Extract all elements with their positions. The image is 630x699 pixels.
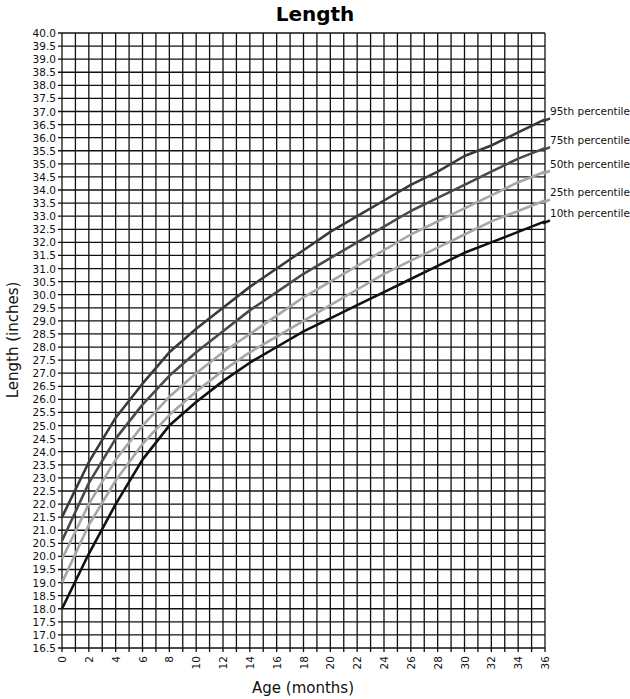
x-tick-label: 30 bbox=[459, 656, 471, 669]
y-tick-label: 32.5 bbox=[33, 223, 56, 235]
y-tick-label: 29.5 bbox=[33, 302, 56, 314]
x-tick-label: 18 bbox=[298, 656, 310, 669]
y-tick-label: 17.5 bbox=[33, 616, 56, 628]
chart-grid bbox=[58, 33, 545, 652]
y-tick-label: 27.0 bbox=[33, 367, 56, 379]
y-tick-label: 19.5 bbox=[33, 563, 56, 575]
legend-label: 95th percentile bbox=[550, 105, 630, 117]
x-tick-label: 28 bbox=[432, 656, 444, 669]
x-tick-label: 2 bbox=[83, 656, 95, 663]
y-tick-label: 38.0 bbox=[33, 79, 56, 91]
y-tick-label: 19.0 bbox=[33, 577, 56, 589]
y-tick-label: 28.0 bbox=[33, 341, 56, 353]
x-tick-label: 36 bbox=[539, 656, 551, 670]
y-tick-label: 35.5 bbox=[33, 145, 56, 157]
y-tick-label: 18.0 bbox=[33, 603, 56, 615]
y-tick-label: 18.5 bbox=[33, 590, 56, 602]
y-tick-label: 27.5 bbox=[33, 354, 56, 366]
x-tick-label: 26 bbox=[405, 656, 417, 670]
x-tick-label: 0 bbox=[56, 656, 68, 663]
y-tick-label: 25.5 bbox=[33, 406, 56, 418]
y-tick-label: 21.5 bbox=[33, 511, 56, 523]
x-tick-label: 16 bbox=[271, 656, 283, 670]
y-tick-label: 17.0 bbox=[33, 629, 56, 641]
y-tick-label: 22.5 bbox=[33, 485, 56, 497]
legend-label: 25th percentile bbox=[550, 186, 630, 198]
x-tick-label: 34 bbox=[512, 656, 524, 670]
x-tick-label: 20 bbox=[324, 656, 336, 669]
y-tick-label: 21.0 bbox=[33, 524, 56, 536]
y-tick-label: 23.5 bbox=[33, 459, 56, 471]
y-axis-label: Length (inches) bbox=[4, 282, 22, 399]
y-tick-label: 23.0 bbox=[33, 472, 56, 484]
y-tick-label: 33.0 bbox=[33, 210, 56, 222]
x-tick-label: 8 bbox=[163, 656, 175, 663]
y-tick-label: 28.5 bbox=[33, 328, 56, 340]
x-axis-label: Age (months) bbox=[252, 679, 354, 697]
y-tick-label: 30.5 bbox=[33, 276, 56, 288]
y-tick-label: 31.0 bbox=[33, 263, 56, 275]
x-tick-label: 22 bbox=[351, 656, 363, 669]
y-tick-label: 36.5 bbox=[33, 119, 56, 131]
y-tick-label: 34.5 bbox=[33, 171, 56, 183]
legend-label: 50th percentile bbox=[550, 158, 630, 170]
y-tick-label: 16.5 bbox=[33, 642, 56, 654]
x-tick-label: 12 bbox=[217, 656, 229, 669]
y-tick-label: 39.5 bbox=[33, 40, 56, 52]
y-tick-label: 37.0 bbox=[33, 106, 56, 118]
legend: 95th percentile75th percentile50th perce… bbox=[543, 105, 630, 223]
y-tick-label: 20.5 bbox=[33, 537, 56, 549]
y-tick-label: 38.5 bbox=[33, 66, 56, 78]
x-tick-label: 4 bbox=[110, 656, 122, 663]
x-tick-label: 32 bbox=[485, 656, 497, 669]
y-tick-label: 20.0 bbox=[33, 550, 56, 562]
y-tick-label: 24.0 bbox=[33, 446, 56, 458]
y-tick-label: 33.5 bbox=[33, 197, 56, 209]
y-tick-label: 30.0 bbox=[33, 289, 56, 301]
y-tick-label: 26.0 bbox=[33, 393, 56, 405]
x-tick-label: 24 bbox=[378, 656, 390, 670]
y-tick-label: 34.0 bbox=[33, 184, 56, 196]
y-tick-label: 39.0 bbox=[33, 53, 56, 65]
x-axis-ticks: 024681012141618202224262830323436 bbox=[56, 656, 551, 670]
y-tick-label: 31.5 bbox=[33, 249, 56, 261]
y-tick-label: 29.0 bbox=[33, 315, 56, 327]
y-tick-label: 32.0 bbox=[33, 236, 56, 248]
x-tick-label: 14 bbox=[244, 656, 256, 670]
y-tick-label: 22.0 bbox=[33, 498, 56, 510]
y-tick-label: 37.5 bbox=[33, 92, 56, 104]
y-tick-label: 26.5 bbox=[33, 380, 56, 392]
y-tick-label: 36.0 bbox=[33, 132, 56, 144]
y-tick-label: 35.0 bbox=[33, 158, 56, 170]
y-tick-label: 25.0 bbox=[33, 420, 56, 432]
x-tick-label: 10 bbox=[190, 656, 202, 669]
y-axis-ticks: 16.517.017.518.018.519.019.520.020.521.0… bbox=[33, 27, 56, 654]
x-tick-label: 6 bbox=[137, 656, 149, 663]
legend-label: 75th percentile bbox=[550, 134, 630, 146]
growth-chart: 16.517.017.518.018.519.019.520.020.521.0… bbox=[0, 0, 630, 699]
legend-label: 10th percentile bbox=[550, 207, 630, 219]
y-tick-label: 24.5 bbox=[33, 433, 56, 445]
y-tick-label: 40.0 bbox=[33, 27, 56, 39]
